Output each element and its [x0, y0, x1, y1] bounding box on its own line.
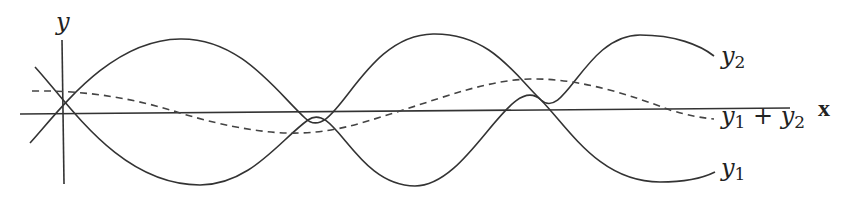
- curve-label-y1-subscript: 1: [735, 164, 746, 184]
- curve-label-sum-subscript1: 1: [735, 112, 746, 132]
- y-axis-line: [62, 40, 64, 184]
- curve-label-sum-subscript2: 2: [794, 112, 805, 132]
- curve-y2: [30, 34, 714, 143]
- curve-label-sum-var1: y: [721, 102, 735, 130]
- curve-label-sum-var2: y: [781, 102, 795, 130]
- curve-label-sum: y1 + y2: [721, 104, 805, 128]
- y-axis-label: y: [56, 10, 70, 34]
- x-axis-label-text: x: [818, 95, 830, 121]
- x-axis-label: x: [818, 96, 830, 120]
- curve-label-y2-subscript: 2: [735, 52, 746, 72]
- x-axis-line: [20, 108, 790, 114]
- curve-label-sum-operator: +: [745, 102, 780, 130]
- curve-label-y1-var: y: [721, 154, 735, 182]
- curve-label-y1: y1: [721, 156, 745, 180]
- curve-label-y2: y2: [721, 44, 745, 68]
- curve-y1-plus-y2: [32, 79, 714, 133]
- curve-label-y2-var: y: [721, 42, 735, 70]
- y-axis-label-text: y: [56, 8, 70, 36]
- wave-superposition-diagram: y x y2 y1 + y2 y1: [0, 0, 856, 211]
- curve-y1: [35, 67, 715, 186]
